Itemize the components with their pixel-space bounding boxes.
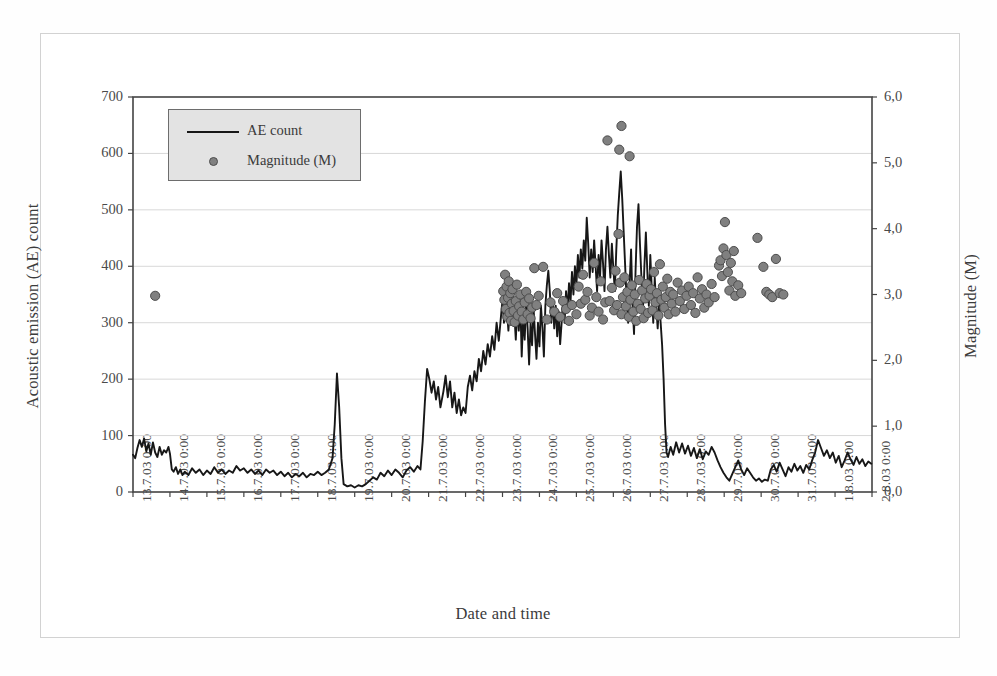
legend-label-ae-count: AE count: [247, 122, 302, 139]
legend-item-ae-count: AE count: [169, 121, 360, 143]
line-swatch-icon: [187, 131, 239, 133]
series-ae-count: [133, 171, 871, 487]
plot-canvas: [0, 0, 997, 676]
legend-label-magnitude: Magnitude (M): [247, 152, 336, 169]
dot-swatch-icon: [209, 157, 218, 166]
legend: AE count Magnitude (M): [168, 109, 361, 181]
legend-item-magnitude: Magnitude (M): [169, 151, 360, 173]
chart-figure: Acoustic emission (AE) count Magnitude (…: [0, 0, 997, 676]
